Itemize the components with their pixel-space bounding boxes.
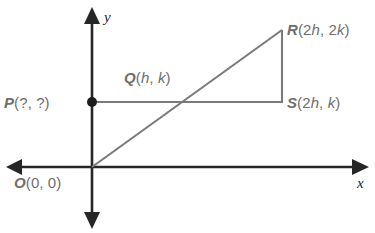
y-axis-label: y [104,10,111,25]
point-marker-P [87,97,97,107]
point-label-P: P(?, ?) [4,95,50,110]
point-label-Q: Q(h, k) [124,70,171,85]
x-axis-label: x [357,176,364,191]
point-label-S: S(2h, k) [287,95,340,110]
point-label-Q-coords: (h, k) [136,69,171,86]
point-label-R: R(2h, 2k) [287,22,350,37]
x-axis [6,159,369,175]
point-label-P-coords: (?, ?) [14,94,50,111]
point-label-R-coords: (2h, 2k) [298,21,350,38]
point-label-P-name: P [4,94,14,111]
origin-label-coords: (0, 0) [26,174,62,191]
y-axis-top-arrowhead [84,7,100,24]
origin-label: O(0, 0) [14,175,61,190]
x-axis-right-arrowhead [352,159,369,175]
point-label-S-coords: (2h, k) [297,94,340,111]
y-axis [84,7,100,229]
segment-OR [92,30,282,167]
origin-label-name: O [14,174,26,191]
coordinate-geometry-figure: P(?, ?) Q(h, k) R(2h, 2k) S(2h, k) O(0, … [0,0,375,233]
y-axis-bottom-arrowhead [84,212,100,229]
point-label-S-name: S [287,94,297,111]
point-label-Q-name: Q [124,69,136,86]
point-label-R-name: R [287,21,298,38]
x-axis-left-arrowhead [6,159,22,175]
